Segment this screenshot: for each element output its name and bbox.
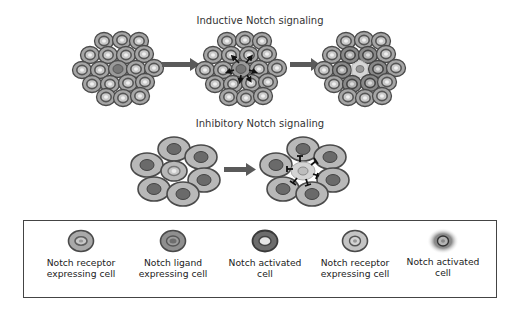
legend-label: Notch activated cell xyxy=(220,257,310,279)
inhibitory-cluster-signaling xyxy=(260,137,349,206)
legend-label-line1: Notch ligand xyxy=(128,257,218,268)
legend-label-line2: cell xyxy=(398,267,488,278)
legend-label-line1: Notch receptor xyxy=(36,257,126,268)
legend-label-line2: expressing cell xyxy=(128,268,218,279)
legend-item-notch-receptor-light: Notch receptor expressing cell xyxy=(310,221,400,279)
notch-activated-cell-icon xyxy=(250,228,280,254)
legend-item-notch-activated: Notch activated cell xyxy=(220,221,310,279)
inhibitory-cluster-initial xyxy=(131,137,220,206)
legend-label-line1: Notch receptor xyxy=(310,257,400,268)
legend-label-line1: Notch activated xyxy=(220,257,310,268)
inductive-cluster-initial xyxy=(73,32,164,107)
legend-item-notch-receptor: Notch receptor expressing cell xyxy=(36,221,126,279)
notch-ligand-cell-icon xyxy=(158,228,188,254)
arrow-right-icon xyxy=(224,163,256,176)
legend-item-notch-ligand: Notch ligand expressing cell xyxy=(128,221,218,279)
notch-receptor-cell-light-icon xyxy=(340,228,370,254)
arrow-right-icon xyxy=(162,58,200,71)
legend-label: Notch activated cell xyxy=(398,256,488,278)
notch-signaling-diagram xyxy=(0,0,521,215)
legend-label-line2: cell xyxy=(220,268,310,279)
legend: Notch receptor expressing cell Notch lig… xyxy=(23,220,497,298)
legend-label: Notch ligand expressing cell xyxy=(128,257,218,279)
legend-label-line1: Notch activated xyxy=(398,256,488,267)
legend-label-line2: expressing cell xyxy=(36,268,126,279)
legend-label: Notch receptor expressing cell xyxy=(36,257,126,279)
inductive-cluster-signaling xyxy=(196,32,287,107)
legend-label-line2: expressing cell xyxy=(310,268,400,279)
legend-label: Notch receptor expressing cell xyxy=(310,257,400,279)
notch-receptor-cell-icon xyxy=(66,228,96,254)
notch-activated-glow-cell-icon xyxy=(426,227,460,255)
inductive-cluster-result xyxy=(315,32,406,107)
legend-item-notch-activated-glow: Notch activated cell xyxy=(398,221,488,278)
